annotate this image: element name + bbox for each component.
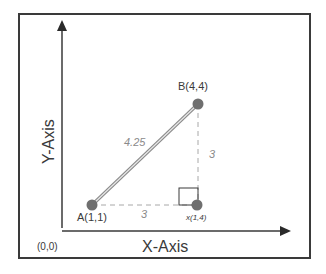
vertical-length-label: 3 [209,148,215,160]
hypotenuse-length-label: 4.25 [124,136,145,148]
y-axis-arrow-icon [57,20,67,31]
point-b [193,99,204,110]
y-axis [57,20,67,228]
point-x [192,200,203,211]
x-axis-label: X-Axis [142,238,188,256]
x-axis [62,226,291,236]
point-x-label: x(1,4) [186,213,206,222]
point-a [87,200,98,211]
segment-a-b [92,104,198,205]
point-b-label: B(4,4) [178,80,208,92]
y-axis-label: Y-Axis [40,119,58,164]
point-a-label: A(1,1) [77,211,107,223]
x-axis-arrow-icon [280,226,291,236]
origin-label: (0,0) [37,241,58,252]
horizontal-length-label: 3 [141,208,147,220]
